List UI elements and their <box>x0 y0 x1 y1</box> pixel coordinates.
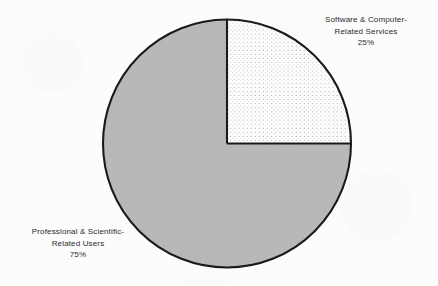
pie-chart-figure: Software & Computer- Related Services 25… <box>0 0 438 286</box>
slice-label-professional-percent: 75% <box>8 249 148 261</box>
slice-label-software: Software & Computer- Related Services 25… <box>296 14 436 49</box>
slice-label-professional-line2: Related Users <box>8 238 148 250</box>
slice-label-professional-line1: Professional & Scientific- <box>8 226 148 238</box>
slice-label-software-percent: 25% <box>296 37 436 49</box>
slice-label-software-line2: Related Services <box>296 26 436 38</box>
slice-label-professional: Professional & Scientific- Related Users… <box>8 226 148 261</box>
slice-label-software-line1: Software & Computer- <box>296 14 436 26</box>
